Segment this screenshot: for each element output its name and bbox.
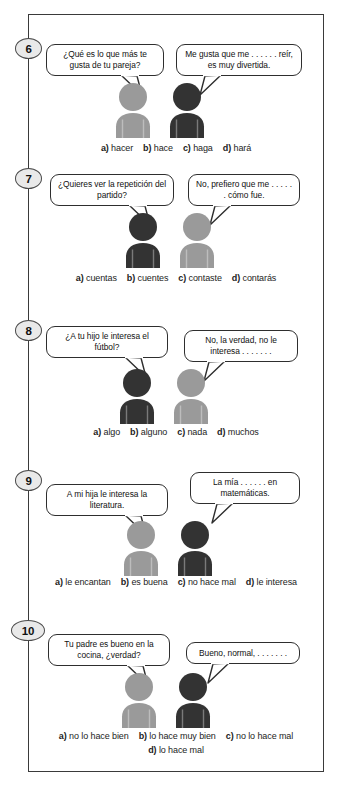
answer-option-letter: c) (178, 577, 186, 587)
answer-option-letter: a) (101, 143, 109, 153)
exercise-number-6: 6 (15, 38, 42, 59)
answer-option-c[interactable]: c) no hace mal (178, 576, 236, 589)
answer-option-text: algo (103, 427, 120, 437)
right-speech-bubble: Me gusta que me . . . . . . reír, es muy… (176, 44, 302, 76)
answer-option-letter: c) (183, 143, 191, 153)
exercise-number-10: 10 (11, 620, 45, 641)
right-person-dark-icon (172, 520, 218, 576)
answer-option-text: cuentes (138, 273, 169, 283)
answer-option-a[interactable]: a) cuentas (76, 272, 117, 285)
exercise-number-7: 7 (15, 168, 42, 189)
right-person-light-icon (174, 212, 220, 268)
left-person-dark-icon (120, 212, 166, 268)
worksheet-page: 6¿Qué es lo que más te gusta de tu parej… (0, 0, 339, 790)
answer-option-d[interactable]: d) le interesa (246, 576, 297, 589)
answer-option-d[interactable]: d) contarás (232, 272, 276, 285)
answer-option-text: contaste (189, 273, 222, 283)
left-speech-bubble: A mi hija le interesa la literatura. (46, 484, 168, 516)
answer-option-b[interactable]: b) es buena (121, 576, 168, 589)
right-person-light-icon (168, 368, 214, 424)
answer-option-letter: d) (148, 745, 156, 755)
left-person-light-icon (116, 672, 162, 728)
left-speech-bubble: ¿A tu hijo le interesa el fútbol? (46, 326, 168, 358)
answer-option-text: lo hace mal (159, 745, 204, 755)
answer-option-letter: d) (223, 143, 231, 153)
answer-option-a[interactable]: a) no lo hace bien (59, 730, 129, 743)
answer-options: a) le encantanb) es buenac) no hace mald… (28, 576, 324, 589)
answer-option-letter: a) (55, 577, 63, 587)
answer-option-c[interactable]: c) haga (183, 142, 213, 155)
answer-option-c[interactable]: c) no lo hace mal (226, 730, 293, 743)
answer-option-text: hará (233, 143, 251, 153)
exercise-number-9: 9 (15, 470, 42, 491)
answer-options: a) hacerb) hacec) hagad) hará (28, 142, 324, 155)
answer-options-line-2: d) lo hace mal (28, 744, 324, 757)
answer-option-letter: d) (246, 577, 254, 587)
answer-option-a[interactable]: a) le encantan (55, 576, 111, 589)
answer-option-b[interactable]: b) lo hace muy bien (139, 730, 216, 743)
answer-option-letter: b) (121, 577, 129, 587)
answer-option-text: alguno (141, 427, 167, 437)
answer-option-text: le encantan (65, 577, 110, 587)
answer-option-letter: b) (139, 731, 147, 741)
right-speech-bubble: No, la verdad, no le interesa . . . . . … (184, 330, 298, 362)
answer-option-a[interactable]: a) algo (93, 426, 120, 439)
left-person-light-icon (118, 520, 164, 576)
left-person-dark-icon (114, 368, 160, 424)
right-speech-bubble: Bueno, normal, . . . . . . . (186, 642, 300, 664)
exercise-number-8: 8 (15, 320, 42, 341)
right-person-dark-icon (164, 82, 210, 138)
right-speech-bubble: La mía . . . . . . en matemáticas. (190, 472, 300, 504)
answer-option-letter: a) (93, 427, 101, 437)
answer-option-d[interactable]: d) muchos (217, 426, 259, 439)
answer-option-d[interactable]: d) lo hace mal (148, 744, 204, 757)
answer-option-text: contarás (243, 273, 277, 283)
answer-option-letter: a) (76, 273, 84, 283)
left-speech-bubble: Tu padre es bueno en la cocina, ¿verdad? (48, 634, 170, 666)
answer-option-letter: a) (59, 731, 67, 741)
answer-option-text: hace (154, 143, 173, 153)
answer-option-letter: b) (127, 273, 135, 283)
answer-option-letter: b) (130, 427, 138, 437)
answer-option-c[interactable]: c) contaste (178, 272, 221, 285)
answer-options: a) no lo hace bienb) lo hace muy bienc) … (28, 730, 324, 757)
left-speech-bubble: ¿Qué es lo que más te gusta de tu pareja… (46, 44, 164, 76)
answer-options-line-1: a) no lo hace bienb) lo hace muy bienc) … (54, 731, 298, 741)
answer-option-text: le interesa (257, 577, 297, 587)
answer-option-a[interactable]: a) hacer (101, 142, 133, 155)
answer-option-text: no lo hace mal (236, 731, 293, 741)
answer-option-d[interactable]: d) hará (223, 142, 251, 155)
answer-option-b[interactable]: b) alguno (130, 426, 167, 439)
answer-option-text: muchos (228, 427, 259, 437)
right-person-dark-icon (170, 672, 216, 728)
answer-option-text: lo hace muy bien (149, 731, 215, 741)
answer-option-c[interactable]: c) nada (177, 426, 207, 439)
answer-option-text: nada (187, 427, 207, 437)
answer-option-text: es buena (131, 577, 167, 587)
answer-option-text: haga (193, 143, 213, 153)
answer-option-text: hacer (111, 143, 133, 153)
answer-option-b[interactable]: b) cuentes (127, 272, 169, 285)
answer-option-letter: c) (177, 427, 185, 437)
left-person-light-icon (110, 82, 156, 138)
answer-option-text: no hace mal (188, 577, 236, 587)
right-speech-bubble: No, prefiero que me . . . . . . cómo fue… (188, 174, 300, 206)
answer-option-text: cuentas (86, 273, 117, 283)
answer-option-letter: d) (232, 273, 240, 283)
answer-options: a) cuentasb) cuentesc) contasted) contar… (28, 272, 324, 285)
answer-option-letter: c) (226, 731, 234, 741)
answer-option-text: no lo hace bien (69, 731, 129, 741)
answer-options: a) algob) algunoc) nadad) muchos (28, 426, 324, 439)
left-speech-bubble: ¿Quieres ver la repetición del partido? (50, 174, 174, 206)
answer-option-letter: c) (178, 273, 186, 283)
answer-option-letter: d) (217, 427, 225, 437)
answer-option-letter: b) (143, 143, 151, 153)
answer-option-b[interactable]: b) hace (143, 142, 173, 155)
